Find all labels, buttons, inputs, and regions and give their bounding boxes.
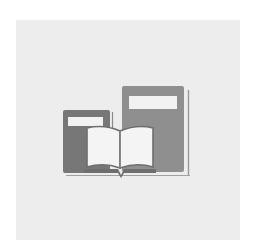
books-icon — [0, 0, 253, 248]
left-book-label — [68, 117, 103, 126]
open-book — [84, 127, 156, 178]
right-book-label — [129, 96, 177, 109]
